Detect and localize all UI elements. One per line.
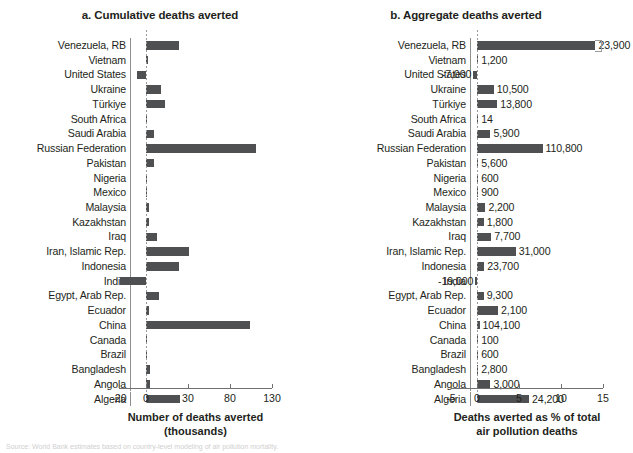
bar-row: Venezuela, RB bbox=[0, 38, 320, 53]
category-label: Ukraine bbox=[0, 82, 126, 97]
panel-a-x-axis-title: Number of deaths averted (thousands) bbox=[46, 410, 346, 438]
y-axis-tick-stub bbox=[130, 392, 131, 407]
bar-value-label: 2,800 bbox=[481, 362, 507, 377]
bar bbox=[146, 247, 189, 255]
bar-value-label: 13,800 bbox=[500, 97, 532, 112]
category-label: India bbox=[0, 274, 126, 289]
panel-b-plot-area: Venezuela, RB23,900Vietnam1,200United St… bbox=[320, 30, 633, 383]
bar-value-label: 9,300 bbox=[487, 288, 513, 303]
y-axis-tick-stub bbox=[470, 259, 471, 274]
y-axis-tick-stub bbox=[130, 112, 131, 127]
category-label: Venezuela, RB bbox=[0, 38, 126, 53]
panel-a-plot-area: Venezuela, RBVietnamUnited StatesUkraine… bbox=[0, 30, 320, 383]
y-axis-tick-stub bbox=[470, 141, 471, 156]
x-axis-tick-label: 5 bbox=[516, 392, 522, 404]
category-label: Angola bbox=[320, 377, 466, 392]
x-axis-tick bbox=[519, 384, 520, 388]
category-label: Algeria bbox=[320, 392, 466, 407]
y-axis-tick-stub bbox=[130, 288, 131, 303]
bar-row: Bangladesh bbox=[0, 362, 320, 377]
category-label: Russian Federation bbox=[0, 141, 126, 156]
bar-row: Kazakhstan bbox=[0, 215, 320, 230]
bar-value-label: 100 bbox=[481, 333, 498, 348]
y-axis-tick-stub bbox=[130, 229, 131, 244]
bar-row: South Africa bbox=[0, 112, 320, 127]
panel-b-x-axis-title-line2: air pollution deaths bbox=[377, 424, 633, 438]
bar bbox=[477, 292, 484, 300]
y-axis-tick-stub bbox=[130, 362, 131, 377]
bar bbox=[477, 100, 497, 108]
y-axis-tick-stub bbox=[470, 215, 471, 230]
y-axis-tick-stub bbox=[470, 288, 471, 303]
category-label: Russian Federation bbox=[320, 141, 466, 156]
figure-footnote: Source: World Bank estimates based on co… bbox=[6, 443, 626, 453]
bar-row: India bbox=[0, 274, 320, 289]
bar-endcap-bracket bbox=[595, 40, 602, 52]
bar-row: Ukraine bbox=[0, 82, 320, 97]
bar-row: Vietnam bbox=[0, 53, 320, 68]
category-label: Pakistan bbox=[0, 156, 126, 171]
y-axis-tick-stub bbox=[470, 347, 471, 362]
y-axis-tick-stub bbox=[130, 333, 131, 348]
x-axis-tick-label: 0 bbox=[143, 392, 149, 404]
x-axis-tick-label: -5 bbox=[446, 392, 455, 404]
x-axis-tick bbox=[188, 384, 189, 388]
y-axis-tick-stub bbox=[470, 156, 471, 171]
x-axis-tick-label: 15 bbox=[597, 392, 609, 404]
panel-a-title: a. Cumulative deaths averted bbox=[10, 9, 310, 21]
category-label: Nigeria bbox=[0, 171, 126, 186]
bar bbox=[120, 277, 146, 285]
category-label: Pakistan bbox=[320, 156, 466, 171]
y-axis-tick-stub bbox=[470, 200, 471, 215]
x-axis-tick bbox=[230, 384, 231, 388]
bar bbox=[146, 395, 180, 403]
panel-b-x-axis-title-line1: Deaths averted as % of total bbox=[377, 410, 633, 424]
x-axis-tick bbox=[146, 384, 147, 388]
y-axis-tick-stub bbox=[130, 126, 131, 141]
bar bbox=[477, 218, 484, 226]
bar-value-label: 7,700 bbox=[494, 229, 520, 244]
bar-row: Saudi Arabia bbox=[0, 126, 320, 141]
bar-value-label: -19,000 bbox=[438, 274, 473, 289]
bar bbox=[146, 159, 154, 167]
category-label: Saudi Arabia bbox=[320, 126, 466, 141]
bar bbox=[477, 247, 516, 255]
category-label: Kazakhstan bbox=[320, 215, 466, 230]
y-axis-tick-stub bbox=[470, 229, 471, 244]
bar bbox=[477, 262, 484, 270]
bar-value-label: 2,200 bbox=[488, 200, 514, 215]
bar bbox=[146, 233, 157, 241]
x-axis-tick bbox=[272, 384, 273, 388]
category-label: Malaysia bbox=[320, 200, 466, 215]
x-axis-tick-label: 30 bbox=[182, 392, 194, 404]
bar-row: Mexico bbox=[0, 185, 320, 200]
y-axis-tick-stub bbox=[470, 185, 471, 200]
y-axis-tick-stub bbox=[130, 156, 131, 171]
y-axis-tick-stub bbox=[130, 318, 131, 333]
y-axis-tick-stub bbox=[130, 200, 131, 215]
category-label: Türkiye bbox=[320, 97, 466, 112]
y-axis-tick-stub bbox=[130, 141, 131, 156]
bar bbox=[146, 262, 179, 270]
bar-row: Russian Federation bbox=[0, 141, 320, 156]
bar bbox=[477, 144, 543, 152]
y-axis-tick-stub bbox=[470, 377, 471, 392]
category-label: Egypt, Arab Rep. bbox=[320, 288, 466, 303]
bar-row: Iran, Islamic Rep. bbox=[0, 244, 320, 259]
x-axis-tick bbox=[561, 384, 562, 388]
y-axis-tick-stub bbox=[130, 67, 131, 82]
y-axis-tick-stub bbox=[130, 347, 131, 362]
bar-value-label: 14 bbox=[481, 112, 493, 127]
panel-b-title: b. Aggregate deaths averted bbox=[316, 9, 616, 21]
bar bbox=[146, 85, 161, 93]
y-axis-tick-stub bbox=[130, 377, 131, 392]
category-label: Mexico bbox=[0, 185, 126, 200]
y-axis-tick-stub bbox=[130, 38, 131, 53]
y-axis-tick-stub bbox=[470, 392, 471, 407]
bar-row: China bbox=[0, 318, 320, 333]
bar-row: Türkiye bbox=[0, 97, 320, 112]
y-axis-tick-stub bbox=[470, 244, 471, 259]
bar-row: Brazil bbox=[0, 347, 320, 362]
panel-a-bar-rows: Venezuela, RBVietnamUnited StatesUkraine… bbox=[0, 30, 320, 383]
bar-row: Canada bbox=[0, 333, 320, 348]
